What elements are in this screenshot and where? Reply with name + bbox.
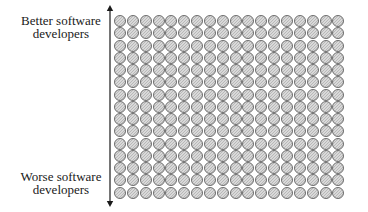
developer-dot-icon xyxy=(255,89,267,101)
developer-dot-icon xyxy=(307,76,319,88)
developer-dot-icon xyxy=(281,27,293,39)
developer-dot-icon xyxy=(332,162,344,174)
developer-dot-icon xyxy=(165,64,177,76)
developer-dot-icon xyxy=(230,52,242,64)
developer-dot-icon xyxy=(242,162,254,174)
developer-dot-icon xyxy=(114,150,126,162)
developer-dot-icon xyxy=(217,89,229,101)
developer-dot-icon xyxy=(255,40,267,52)
developer-dot-icon xyxy=(255,64,267,76)
developer-dot-icon xyxy=(307,64,319,76)
developer-dot-icon xyxy=(165,89,177,101)
developer-dot-icon xyxy=(114,52,126,64)
developer-dot-icon xyxy=(217,52,229,64)
developer-dot-icon xyxy=(217,162,229,174)
developer-dot-icon xyxy=(320,187,332,199)
developer-dot-icon xyxy=(191,113,203,125)
developer-dot-icon xyxy=(307,89,319,101)
developer-dot-icon xyxy=(332,76,344,88)
developer-dot-icon xyxy=(307,15,319,27)
developer-dot-icon xyxy=(191,89,203,101)
worse-developers-label: Worse software developers xyxy=(9,170,113,196)
developer-dot-icon xyxy=(320,40,332,52)
developer-dot-icon xyxy=(127,125,139,137)
developer-dot-icon xyxy=(153,187,165,199)
developer-dot-icon xyxy=(242,174,254,186)
developer-dot-icon xyxy=(127,27,139,39)
developer-dot-icon xyxy=(204,89,216,101)
developer-dot-icon xyxy=(268,15,280,27)
developer-dot-icon xyxy=(242,76,254,88)
developer-dot-icon xyxy=(178,162,190,174)
developer-dot-icon xyxy=(153,162,165,174)
developer-dot-icon xyxy=(242,15,254,27)
developer-dot-icon xyxy=(294,162,306,174)
developer-dot-icon xyxy=(332,52,344,64)
developer-dot-icon xyxy=(153,76,165,88)
developer-dot-icon xyxy=(217,40,229,52)
developer-grid xyxy=(114,15,345,199)
developer-dot-icon xyxy=(140,125,152,137)
developer-dot-icon xyxy=(281,187,293,199)
developer-dot-icon xyxy=(153,113,165,125)
developer-dot-icon xyxy=(178,27,190,39)
developer-dot-icon xyxy=(204,64,216,76)
developer-dot-icon xyxy=(114,113,126,125)
developer-dot-icon xyxy=(255,52,267,64)
developer-dot-icon xyxy=(140,162,152,174)
developer-dot-icon xyxy=(153,89,165,101)
developer-dot-icon xyxy=(332,125,344,137)
developer-dot-icon xyxy=(294,40,306,52)
developer-dot-icon xyxy=(191,138,203,150)
better-developers-label: Better software developers xyxy=(9,14,113,40)
developer-dot-icon xyxy=(114,76,126,88)
developer-dot-icon xyxy=(127,101,139,113)
developer-dot-icon xyxy=(268,40,280,52)
developer-dot-icon xyxy=(178,89,190,101)
developer-dot-icon xyxy=(255,113,267,125)
developer-dot-icon xyxy=(153,101,165,113)
developer-dot-icon xyxy=(242,64,254,76)
developer-dot-icon xyxy=(281,89,293,101)
developer-dot-icon xyxy=(294,89,306,101)
developer-dot-icon xyxy=(242,101,254,113)
developer-dot-icon xyxy=(281,15,293,27)
developer-dot-icon xyxy=(294,101,306,113)
developer-dot-icon xyxy=(281,125,293,137)
developer-dot-icon xyxy=(127,174,139,186)
developer-dot-icon xyxy=(242,40,254,52)
developer-dot-icon xyxy=(127,15,139,27)
developer-dot-icon xyxy=(165,187,177,199)
developer-dot-icon xyxy=(230,15,242,27)
developer-dot-icon xyxy=(255,174,267,186)
developer-dot-icon xyxy=(332,101,344,113)
developer-dot-icon xyxy=(127,150,139,162)
developer-dot-icon xyxy=(268,52,280,64)
developer-dot-icon xyxy=(255,150,267,162)
developer-dot-icon xyxy=(230,89,242,101)
developer-dot-icon xyxy=(165,125,177,137)
developer-dot-icon xyxy=(242,125,254,137)
developer-dot-icon xyxy=(114,64,126,76)
developer-dot-icon xyxy=(153,125,165,137)
developer-dot-icon xyxy=(165,101,177,113)
developer-dot-icon xyxy=(281,138,293,150)
developer-dot-icon xyxy=(140,89,152,101)
developer-dot-icon xyxy=(153,174,165,186)
developer-dot-icon xyxy=(204,150,216,162)
developer-dot-icon xyxy=(153,150,165,162)
developer-dot-icon xyxy=(178,125,190,137)
developer-dot-icon xyxy=(268,187,280,199)
developer-dot-icon xyxy=(307,40,319,52)
developer-dot-icon xyxy=(178,76,190,88)
developer-dot-icon xyxy=(191,125,203,137)
developer-dot-icon xyxy=(153,64,165,76)
developer-dot-icon xyxy=(332,174,344,186)
developer-dot-icon xyxy=(178,187,190,199)
developer-dot-icon xyxy=(191,150,203,162)
developer-dot-icon xyxy=(153,27,165,39)
developer-dot-icon xyxy=(294,150,306,162)
developer-dot-icon xyxy=(255,162,267,174)
developer-dot-icon xyxy=(242,52,254,64)
developer-dot-icon xyxy=(320,174,332,186)
